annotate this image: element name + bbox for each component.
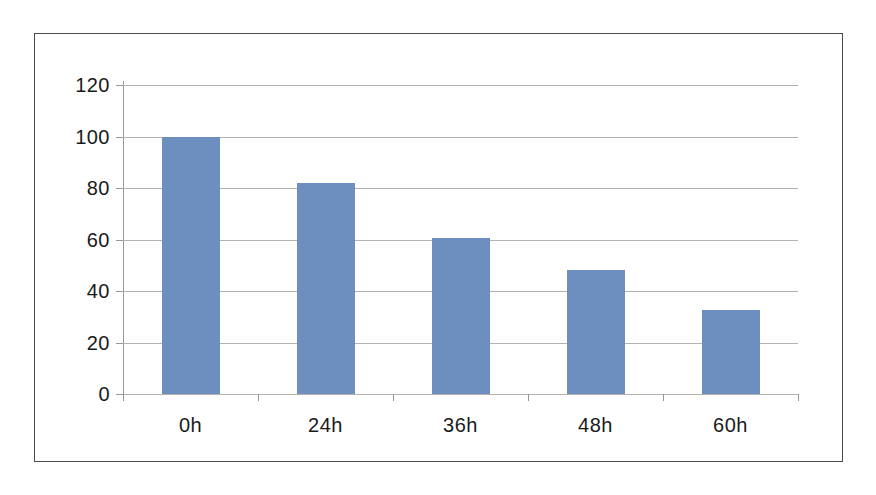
- y-axis-tick: [116, 137, 123, 138]
- y-axis-label: 120: [75, 74, 110, 97]
- y-axis-label: 100: [75, 125, 110, 148]
- x-axis-label: 24h: [308, 414, 343, 437]
- y-axis-label: 0: [98, 383, 110, 406]
- y-axis-label: 80: [87, 177, 110, 200]
- bar: [162, 137, 220, 395]
- x-axis-tick: [258, 394, 259, 401]
- x-axis-label: 48h: [578, 414, 613, 437]
- bar: [567, 270, 625, 394]
- y-axis-tick: [116, 240, 123, 241]
- bar: [432, 238, 490, 394]
- x-axis-label: 36h: [443, 414, 478, 437]
- y-axis-tick: [116, 85, 123, 86]
- x-axis-tick: [663, 394, 664, 401]
- gridline: [123, 394, 798, 395]
- x-axis-tick: [798, 394, 799, 401]
- bar: [297, 183, 355, 394]
- y-axis-label: 40: [87, 280, 110, 303]
- x-axis-tick: [393, 394, 394, 401]
- bar: [702, 310, 760, 394]
- y-axis-label: 60: [87, 228, 110, 251]
- y-axis-tick: [116, 343, 123, 344]
- x-axis-label: 60h: [713, 414, 748, 437]
- figure: 020406080100120 0h24h36h48h60h: [0, 0, 876, 495]
- gridline: [123, 137, 798, 138]
- x-axis-tick: [528, 394, 529, 401]
- gridline: [123, 188, 798, 189]
- chart-frame: 020406080100120 0h24h36h48h60h: [34, 33, 843, 462]
- plot-area: 020406080100120 0h24h36h48h60h: [123, 85, 798, 394]
- y-axis-label: 20: [87, 331, 110, 354]
- x-axis-tick: [123, 394, 124, 401]
- gridline: [123, 85, 798, 86]
- y-axis-tick: [116, 394, 123, 395]
- y-axis-tick: [116, 291, 123, 292]
- y-axis-tick: [116, 188, 123, 189]
- x-axis-label: 0h: [179, 414, 202, 437]
